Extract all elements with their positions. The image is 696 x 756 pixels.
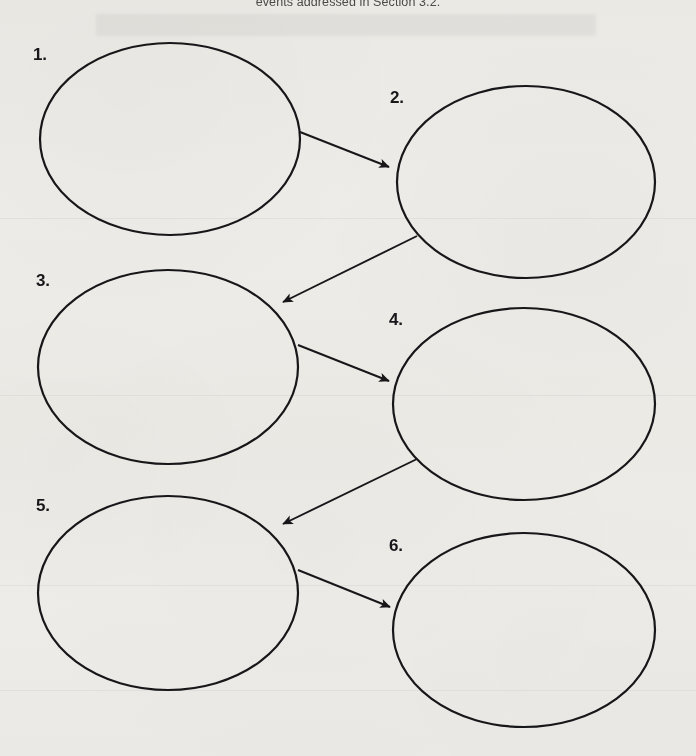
node-1-number-label: 1. (33, 46, 47, 63)
node-1-ellipse[interactable] (40, 43, 300, 235)
arrow-5-to-6-connector (298, 570, 390, 607)
node-3-ellipse[interactable] (38, 270, 298, 464)
arrow-4-to-5-connector (283, 459, 417, 524)
node-2-ellipse[interactable] (397, 86, 655, 278)
node-4-number-label: 4. (389, 311, 403, 328)
arrow-2-to-3-connector (283, 236, 417, 302)
node-4-ellipse[interactable] (393, 308, 655, 500)
worksheet-page: events addressed in Section 3.2. 1.2.3.4… (0, 0, 696, 756)
sequence-chain-diagram (0, 0, 696, 756)
node-5-ellipse[interactable] (38, 496, 298, 690)
node-5-number-label: 5. (36, 497, 50, 514)
node-6-ellipse[interactable] (393, 533, 655, 727)
arrow-3-to-4-connector (298, 345, 389, 381)
node-3-number-label: 3. (36, 272, 50, 289)
arrow-1-to-2-connector (300, 132, 389, 167)
ellipse-layer (38, 43, 655, 727)
node-2-number-label: 2. (390, 89, 404, 106)
node-6-number-label: 6. (389, 537, 403, 554)
